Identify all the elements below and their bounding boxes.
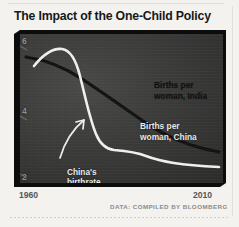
series-label-china: Births per woman, China	[140, 121, 197, 142]
page-bottom-dotted-rule	[10, 217, 230, 218]
y-axis-tick-6: 6	[22, 36, 27, 46]
y-tick-mark-4	[20, 116, 27, 120]
chart-plot-area: Births per woman, India Births per woman…	[20, 34, 223, 183]
page-right-rule	[232, 6, 233, 216]
source-attribution: DATA: COMPILED BY BLOOMBERG	[110, 203, 228, 210]
y-axis-tick-4: 4	[22, 106, 27, 116]
annotation-arrow-curve	[60, 120, 84, 158]
chart-annotation-text: China's birthrate dropped sharply due to…	[67, 167, 172, 183]
figure-page: The Impact of the One-Child Policy Birth…	[0, 0, 239, 227]
chart-panel: Births per woman, India Births per woman…	[14, 30, 226, 187]
chart-title: The Impact of the One-Child Policy	[14, 9, 211, 23]
y-axis-tick-2: 2	[22, 172, 27, 182]
x-axis-tick-end: 2010	[193, 190, 212, 200]
series-label-india: Births per woman, India	[154, 80, 207, 101]
chart-lines-svg	[20, 34, 223, 183]
y-tick-mark-6	[20, 46, 27, 50]
page-top-rule	[8, 3, 224, 4]
x-axis-tick-start: 1960	[19, 190, 38, 200]
